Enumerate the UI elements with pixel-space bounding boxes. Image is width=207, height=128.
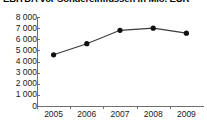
x-axis-tick-label: 2008 — [137, 110, 169, 119]
chart-figure: EBITDA vor Sondereinflüssen in Mio. EUR … — [0, 0, 207, 128]
x-axis-tick-mark — [70, 106, 71, 109]
x-axis-tick-label: 2009 — [170, 110, 202, 119]
y-axis-tick-mark — [37, 17, 40, 18]
y-axis-tick-mark — [37, 62, 40, 63]
data-point-marker — [184, 31, 189, 36]
x-axis-tick-label: 2007 — [104, 110, 136, 119]
data-point-marker — [117, 28, 122, 33]
y-axis-tick-mark — [37, 28, 40, 29]
y-axis-tick-mark — [37, 39, 40, 40]
data-point-marker — [84, 41, 89, 46]
data-point-marker — [51, 52, 56, 57]
x-axis-tick-mark — [37, 106, 38, 109]
y-axis-tick-mark — [37, 50, 40, 51]
y-axis-tick-mark — [37, 73, 40, 74]
x-axis-tick-mark — [170, 106, 171, 109]
y-axis-tick-mark — [37, 95, 40, 96]
x-axis-tick-label: 2005 — [38, 110, 70, 119]
x-axis-tick-mark — [103, 106, 104, 109]
x-axis-tick-mark — [137, 106, 138, 109]
data-point-marker — [151, 26, 156, 31]
y-axis-tick-mark — [37, 84, 40, 85]
x-axis-tick-label: 2006 — [71, 110, 103, 119]
